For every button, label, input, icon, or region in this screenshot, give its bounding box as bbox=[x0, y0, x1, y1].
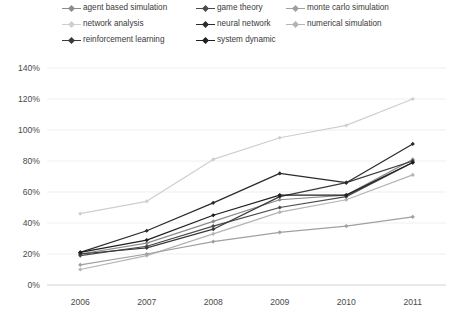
series-line bbox=[80, 144, 413, 253]
legend-marker-icon bbox=[196, 36, 215, 44]
series-line bbox=[80, 163, 413, 253]
series-data-point bbox=[211, 201, 215, 205]
series-data-point bbox=[278, 205, 282, 209]
series-data-point bbox=[278, 171, 282, 175]
series-data-point bbox=[211, 213, 215, 217]
series-data-point bbox=[411, 97, 415, 101]
series-data-point bbox=[344, 224, 348, 228]
y-axis-tick-label: 20% bbox=[23, 249, 41, 259]
legend-marker-icon bbox=[62, 20, 81, 28]
legend-row: network analysisneural networknumerical … bbox=[0, 20, 452, 35]
legend-item[interactable]: neural network bbox=[196, 20, 271, 28]
series-line bbox=[80, 99, 413, 214]
legend-label: numerical simulation bbox=[307, 20, 382, 28]
series-line bbox=[80, 163, 413, 256]
legend-label: reinforcement learning bbox=[83, 36, 164, 44]
legend-label: game theory bbox=[217, 4, 263, 12]
series-data-point bbox=[78, 267, 82, 271]
series-data-point bbox=[411, 215, 415, 219]
legend-label: monte carlo simulation bbox=[307, 4, 389, 12]
legend-marker-icon bbox=[62, 4, 81, 12]
legend-item[interactable]: numerical simulation bbox=[286, 20, 382, 28]
legend-item[interactable]: network analysis bbox=[62, 20, 144, 28]
legend-item[interactable]: system dynamic bbox=[196, 36, 276, 44]
legend-marker-icon bbox=[286, 20, 305, 28]
legend-marker-icon bbox=[62, 36, 81, 44]
series-data-point bbox=[278, 136, 282, 140]
legend-item[interactable]: monte carlo simulation bbox=[286, 4, 389, 12]
x-axis-tick-label: 2009 bbox=[270, 297, 289, 307]
y-axis-tick-label: 80% bbox=[23, 156, 41, 166]
series-data-point bbox=[211, 227, 215, 231]
series-data-point bbox=[145, 229, 149, 233]
series-data-point bbox=[78, 263, 82, 267]
y-axis-tick-label: 120% bbox=[18, 94, 40, 104]
series-line bbox=[80, 161, 413, 254]
legend-row: reinforcement learningsystem dynamic bbox=[0, 36, 452, 51]
series-line bbox=[80, 175, 413, 270]
x-axis-tick-label: 2011 bbox=[404, 297, 423, 307]
series-data-point bbox=[211, 232, 215, 236]
series-data-point bbox=[211, 240, 215, 244]
line-chart: agent based simulationgame theorymonte c… bbox=[0, 0, 452, 317]
y-axis-tick-label: 60% bbox=[23, 187, 41, 197]
legend-item[interactable]: agent based simulation bbox=[62, 4, 167, 12]
legend-label: system dynamic bbox=[217, 36, 276, 44]
legend-item[interactable]: reinforcement learning bbox=[62, 36, 164, 44]
legend-marker-icon bbox=[196, 20, 215, 28]
legend-row: agent based simulationgame theorymonte c… bbox=[0, 4, 452, 19]
series-data-point bbox=[411, 173, 415, 177]
y-axis-tick-label: 140% bbox=[18, 63, 40, 73]
legend-marker-icon bbox=[196, 4, 215, 12]
series-line bbox=[80, 217, 413, 265]
series-data-point bbox=[145, 238, 149, 242]
series-data-point bbox=[278, 230, 282, 234]
plot-area: 0%20%40%60%80%100%120%140%20062007200820… bbox=[0, 56, 452, 317]
y-axis-tick-label: 0% bbox=[28, 280, 41, 290]
series-data-point bbox=[278, 210, 282, 214]
y-axis-tick-label: 100% bbox=[18, 125, 40, 135]
plot-svg: 0%20%40%60%80%100%120%140%20062007200820… bbox=[0, 56, 452, 317]
legend-label: network analysis bbox=[83, 20, 144, 28]
series-data-point bbox=[344, 123, 348, 127]
legend-label: agent based simulation bbox=[83, 4, 167, 12]
x-axis-tick-label: 2007 bbox=[137, 297, 156, 307]
x-axis-tick-label: 2006 bbox=[71, 297, 90, 307]
series-data-point bbox=[78, 212, 82, 216]
y-axis-tick-label: 40% bbox=[23, 218, 41, 228]
chart-legend: agent based simulationgame theorymonte c… bbox=[0, 4, 452, 54]
legend-item[interactable]: game theory bbox=[196, 4, 263, 12]
legend-marker-icon bbox=[286, 4, 305, 12]
x-axis-tick-label: 2008 bbox=[204, 297, 223, 307]
legend-label: neural network bbox=[217, 20, 271, 28]
x-axis-tick-label: 2010 bbox=[337, 297, 356, 307]
